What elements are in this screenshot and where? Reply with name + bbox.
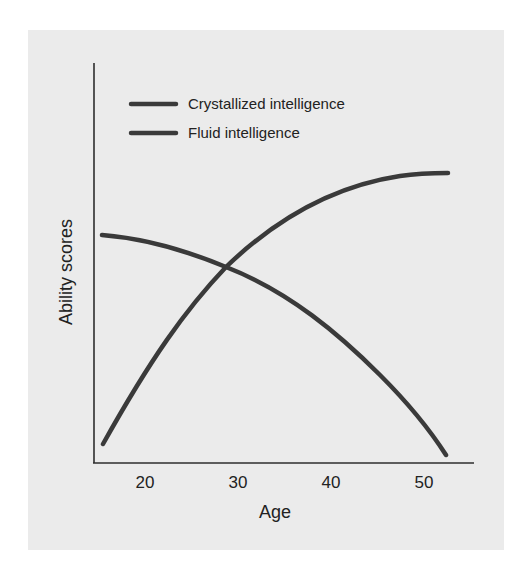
line-chart: Crystallized intelligence Fluid intellig… bbox=[0, 0, 522, 576]
legend-label-crystallized: Crystallized intelligence bbox=[188, 95, 345, 112]
x-tick-label: 50 bbox=[415, 473, 434, 492]
series-crystallized-intelligence bbox=[103, 173, 448, 444]
legend-label-fluid: Fluid intelligence bbox=[188, 124, 300, 141]
x-tick-label: 20 bbox=[136, 473, 155, 492]
y-axis-label: Ability scores bbox=[56, 219, 76, 325]
x-tick-label: 40 bbox=[322, 473, 341, 492]
x-axis-label: Age bbox=[259, 502, 291, 522]
x-tick-label: 30 bbox=[229, 473, 248, 492]
series-fluid-intelligence bbox=[102, 235, 446, 455]
